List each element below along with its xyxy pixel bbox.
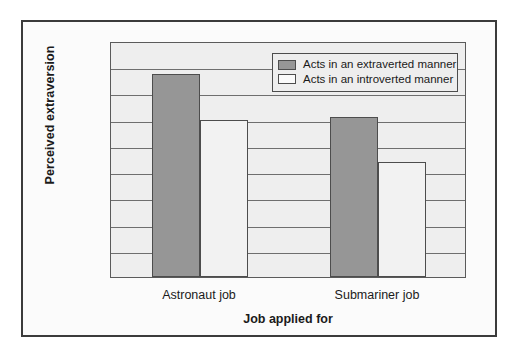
legend-label: Acts in an introverted manner	[303, 73, 453, 86]
x-axis-tick-label: Astronaut job	[162, 288, 236, 302]
bar	[152, 74, 200, 277]
legend-swatch-introverted-icon	[278, 74, 296, 84]
x-axis-title: Job applied for	[110, 312, 466, 326]
bar	[330, 117, 378, 277]
legend-label: Acts in an extraverted manner	[303, 58, 456, 71]
y-axis-title: Perceived extraversion	[43, 35, 57, 195]
x-axis-tick-label: Submariner job	[335, 288, 420, 302]
legend-entry: Acts in an extraverted manner	[278, 58, 452, 72]
legend: Acts in an extraverted manner Acts in an…	[272, 53, 458, 92]
legend-swatch-extraverted-icon	[278, 60, 296, 70]
figure-container: Perceived extraversion 024681012141618 A…	[0, 0, 522, 358]
legend-entry: Acts in an introverted manner	[278, 72, 452, 86]
bar	[378, 162, 426, 277]
bar	[200, 120, 248, 277]
